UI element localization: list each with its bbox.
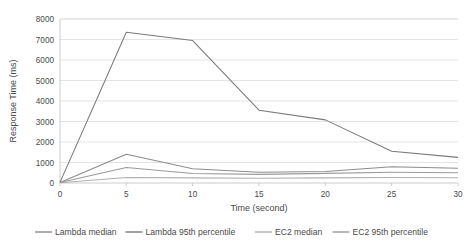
x-tick-label-25: 25 <box>387 190 397 199</box>
y-tick-label-6000: 6000 <box>36 56 55 65</box>
x-tick-label-10: 10 <box>188 190 198 199</box>
x-tick-label-15: 15 <box>254 190 264 199</box>
line-chart: 0100020003000400050006000700080000510152… <box>0 0 470 250</box>
legend-label-2: EC2 median <box>275 227 323 237</box>
legend-label-1: Lambda 95th percentile <box>145 227 235 237</box>
y-tick-label-1000: 1000 <box>36 159 55 168</box>
y-tick-label-2000: 2000 <box>36 138 55 147</box>
legend-label-3: EC2 95th percentile <box>352 227 428 237</box>
y-tick-label-3000: 3000 <box>36 118 55 127</box>
y-tick-label-5000: 5000 <box>36 77 55 86</box>
x-tick-label-0: 0 <box>58 190 63 199</box>
y-axis-title: Response Time (ms) <box>8 59 18 142</box>
y-tick-label-8000: 8000 <box>36 15 55 24</box>
y-tick-label-7000: 7000 <box>36 36 55 45</box>
x-tick-label-20: 20 <box>321 190 331 199</box>
chart-canvas: 0100020003000400050006000700080000510152… <box>0 0 470 250</box>
x-axis-title: Time (second) <box>230 203 287 213</box>
legend-label-0: Lambda median <box>55 227 117 237</box>
y-tick-label-4000: 4000 <box>36 97 55 106</box>
x-tick-label-30: 30 <box>453 190 463 199</box>
y-tick-label-0: 0 <box>49 179 54 188</box>
x-tick-label-5: 5 <box>124 190 129 199</box>
